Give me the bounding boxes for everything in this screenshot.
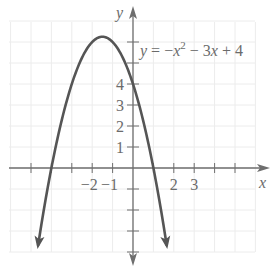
x-tick-label: 3 [190, 176, 198, 193]
y-axis-label: y [114, 4, 124, 22]
equation-x1: x [172, 42, 180, 59]
y-tick-label: 2 [116, 118, 124, 135]
curve-arrowheads [35, 235, 171, 249]
y-tick-label: 1 [116, 139, 124, 156]
x-tick-label: 2 [170, 176, 178, 193]
equation-x2: x [210, 42, 218, 59]
equation-mid: − 3 [186, 42, 211, 59]
x-axis-label: x [258, 174, 266, 191]
equation-tail: + 4 [218, 42, 243, 59]
parabola-graph: y x y = −x2 − 3x + 4 −2−123 1234 [0, 0, 275, 267]
y-tick-label: 4 [116, 76, 124, 93]
x-tick-labels: −2−123 [81, 176, 199, 193]
equation-label: y = −x2 − 3x + 4 [138, 39, 243, 60]
y-tick-label: 3 [116, 97, 124, 114]
x-tick-label: −2 [81, 176, 98, 193]
x-tick-label: −1 [101, 176, 118, 193]
equation-eq: = − [147, 42, 173, 59]
y-tick-labels: 1234 [116, 76, 124, 156]
parabola-curve [38, 37, 167, 245]
